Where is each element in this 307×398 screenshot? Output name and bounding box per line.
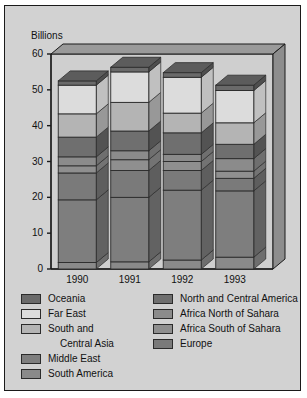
legend-swatch-spacer	[21, 339, 41, 349]
chart-svg	[5, 6, 302, 296]
bar-segment	[216, 159, 254, 172]
bar-segment	[163, 162, 201, 171]
bar-segment	[163, 77, 201, 113]
legend-item[interactable]: Africa North of Sahara	[153, 307, 303, 322]
legend-item[interactable]: Far East	[21, 307, 161, 322]
x-axis-tick-label: 1992	[162, 274, 202, 285]
legend-label: South America	[48, 367, 113, 381]
bar-segment	[58, 173, 96, 200]
bar-segment	[216, 191, 254, 257]
bar-segment	[163, 133, 201, 155]
chart-plot-area: 0102030405060 Billions 1990199119921993	[5, 6, 302, 296]
bar-segment	[58, 85, 96, 114]
legend-column-left: OceaniaFar EastSouth andCentral AsiaMidd…	[21, 292, 161, 382]
legend-swatch	[153, 339, 173, 349]
legend-label: Central Asia	[48, 337, 114, 351]
bar-segment	[163, 73, 201, 78]
y-axis-tick-label: 20	[21, 192, 43, 202]
bar-segment	[111, 131, 149, 151]
bar-segment	[58, 114, 96, 137]
legend-swatch	[21, 309, 41, 319]
bar-segment-side	[201, 180, 213, 260]
bar-segment	[163, 170, 201, 190]
bar-segment	[111, 67, 149, 72]
bar-segment-side	[254, 181, 266, 257]
y-axis-tick-label: 40	[21, 121, 43, 131]
bar-segment	[58, 166, 96, 173]
bar-segment	[111, 197, 149, 261]
bar-segment-side	[96, 190, 108, 263]
y-axis-tick-label: 0	[21, 264, 43, 274]
y-axis-tick-label: 30	[21, 157, 43, 167]
legend-swatch	[21, 369, 41, 379]
legend-swatch	[153, 294, 173, 304]
x-axis-tick-label: 1991	[110, 274, 150, 285]
y-axis-unit-label: Billions	[31, 30, 63, 41]
bar-segment	[216, 257, 254, 269]
bar-segment	[111, 102, 149, 131]
legend-item[interactable]: Oceania	[21, 292, 161, 307]
bar-segment-side	[149, 187, 161, 261]
y-axis-tick-label: 50	[21, 85, 43, 95]
bar-segment	[163, 260, 201, 269]
legend-swatch	[21, 324, 41, 334]
legend-label: Far East	[48, 307, 86, 321]
bar-segment	[58, 81, 96, 85]
legend-label: Europe	[180, 337, 212, 351]
bar-segment	[216, 144, 254, 158]
bar-segment	[111, 160, 149, 171]
legend-item[interactable]: North and Central America	[153, 292, 303, 307]
legend-column-right: North and Central AmericaAfrica North of…	[153, 292, 303, 352]
legend-item[interactable]: Europe	[153, 337, 303, 352]
legend-item[interactable]: Central Asia	[21, 337, 161, 352]
bar-segment	[58, 263, 96, 269]
legend-swatch	[153, 309, 173, 319]
bar-segment	[216, 91, 254, 123]
legend-label: North and Central America	[180, 292, 298, 306]
legend-item[interactable]: South America	[21, 367, 161, 382]
bar-segment	[216, 171, 254, 178]
legend-swatch	[21, 354, 41, 364]
legend-swatch	[153, 324, 173, 334]
legend-label: South and	[48, 322, 94, 336]
legend-item[interactable]: South and	[21, 322, 161, 337]
legend-label: Africa North of Sahara	[180, 307, 279, 321]
legend-item[interactable]: Middle East	[21, 352, 161, 367]
bar-segment	[216, 85, 254, 90]
bar-segment	[163, 154, 201, 161]
bar-segment	[163, 190, 201, 260]
bar-segment	[111, 151, 149, 160]
plot-right-wall	[273, 44, 285, 269]
bar-segment	[58, 200, 96, 263]
bar-segment	[111, 170, 149, 197]
legend-swatch	[21, 294, 41, 304]
bar-segment	[58, 157, 96, 166]
legend-label: Middle East	[48, 352, 100, 366]
bar-segment	[216, 178, 254, 191]
chart-legend: OceaniaFar EastSouth andCentral AsiaMidd…	[5, 292, 302, 392]
legend-label: Oceania	[48, 292, 85, 306]
bar-segment	[216, 123, 254, 145]
legend-label: Africa South of Sahara	[180, 322, 281, 336]
y-axis-tick-label: 60	[21, 49, 43, 59]
bar-segment	[111, 72, 149, 102]
legend-item[interactable]: Africa South of Sahara	[153, 322, 303, 337]
y-axis-tick-label: 10	[21, 228, 43, 238]
x-axis-tick-label: 1993	[215, 274, 255, 285]
bar-segment	[163, 113, 201, 133]
bar-segment	[58, 137, 96, 157]
plot-top-slab	[51, 44, 285, 54]
chart-frame: 0102030405060 Billions 1990199119921993 …	[4, 5, 301, 391]
x-axis-tick-label: 1990	[57, 274, 97, 285]
bar-segment	[111, 262, 149, 269]
